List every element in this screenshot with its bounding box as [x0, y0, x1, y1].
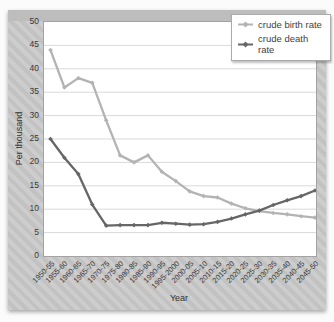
data-point-marker: [132, 223, 137, 228]
y-axis-title: Per thousand: [14, 89, 25, 189]
data-point-marker: [215, 220, 220, 225]
y-tick-label: 5: [8, 227, 39, 237]
y-tick-label: 0: [8, 250, 39, 260]
legend-label: crude death rate: [258, 33, 326, 55]
data-point-marker: [146, 223, 151, 228]
data-point-marker: [187, 222, 192, 227]
x-axis-title: Year: [129, 293, 229, 303]
data-point-marker: [271, 211, 276, 216]
series-line-crude-birth-rate: [51, 50, 316, 218]
chart-container: 05101520253035404550 1950-551955-601960-…: [8, 10, 326, 310]
y-tick-label: 45: [8, 39, 39, 49]
y-tick-label: 10: [8, 203, 39, 213]
data-point-marker: [313, 215, 316, 220]
data-point-marker: [118, 223, 123, 228]
data-point-marker: [201, 222, 206, 227]
y-tick-label: 40: [8, 63, 39, 73]
data-point-marker: [160, 220, 165, 225]
data-point-marker: [285, 212, 290, 217]
y-tick-label: 50: [8, 16, 39, 26]
legend-item: crude death rate: [237, 33, 326, 55]
legend-label: crude birth rate: [258, 19, 322, 30]
legend-marker-icon: [237, 20, 254, 29]
legend-item: crude birth rate: [237, 19, 326, 30]
legend: crude birth ratecrude death rate: [231, 14, 331, 61]
data-point-marker: [299, 214, 304, 219]
data-point-marker: [173, 221, 178, 226]
legend-marker-icon: [237, 40, 254, 49]
